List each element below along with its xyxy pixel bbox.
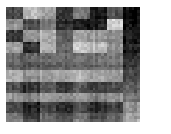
figure-canvas (0, 0, 171, 134)
heatmap-image (6, 7, 140, 122)
